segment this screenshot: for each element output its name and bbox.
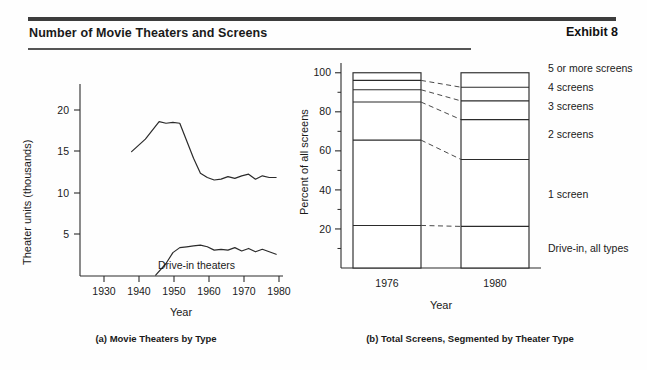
legend-item-4-screens: 4 screens	[548, 81, 594, 93]
connector-1	[421, 225, 461, 226]
chart-b-ytick-label-20: 20	[319, 223, 331, 235]
chart-b-bars	[353, 73, 529, 268]
legend-item-3-screens: 3 screens	[548, 100, 594, 112]
chart-a-y-ticks: 20 15 10 5	[57, 104, 80, 240]
chart-a-ytick-5: 5	[63, 228, 69, 240]
legend-item-5-or-more-screens: 5 or more screens	[548, 62, 633, 74]
legend-item-drive-in: Drive-in, all types	[548, 242, 629, 254]
chart-b-y-ticks: 20406080100	[313, 66, 341, 248]
line-indoor-theaters	[132, 122, 277, 180]
chart-a-xlabel: Year	[170, 306, 193, 318]
chart-b-category-1976: 1976	[375, 277, 399, 289]
caption-chart-b: (b) Total Screens, Segmented by Theater …	[300, 333, 640, 344]
chart-a-line: Theater units (thousands) 20 15 10 5	[18, 60, 303, 330]
chart-b-ytick-label-40: 40	[319, 184, 331, 196]
header-rule-bottom	[28, 48, 471, 50]
connector-5	[421, 80, 461, 87]
connector-4	[421, 90, 461, 101]
chart-b-xlabel: Year	[430, 299, 453, 311]
chart-b-ytick-label-80: 80	[319, 105, 331, 117]
bar-1980	[461, 73, 529, 268]
chart-b-legend: 5 or more screens 4 screens 3 screens 2 …	[548, 62, 633, 254]
chart-a-ytick-20: 20	[57, 104, 69, 116]
chart-a-xtick-1960: 1960	[197, 285, 221, 297]
chart-b-ytick-label-60: 60	[319, 144, 331, 156]
legend-item-1-screen: 1 screen	[548, 188, 588, 200]
chart-b-connectors	[421, 80, 461, 226]
connector-3	[421, 102, 461, 120]
exhibit-page: Number of Movie Theaters and Screens Exh…	[0, 0, 647, 370]
chart-a-xtick-1930: 1930	[92, 285, 116, 297]
chart-a-svg: Theater units (thousands) 20 15 10 5	[18, 60, 303, 330]
header-rule-top	[28, 17, 616, 21]
chart-a-ylabel: Theater units (thousands)	[21, 140, 33, 265]
chart-a-x-ticks: 1930 1940 1950 1960 1970 1980	[92, 276, 291, 297]
chart-b-ytick-label-100: 100	[313, 66, 331, 78]
chart-b-ylabel: Percent of all screens	[298, 109, 310, 215]
connector-2	[421, 140, 461, 159]
chart-a-xtick-1940: 1940	[127, 285, 151, 297]
chart-a-ytick-15: 15	[57, 145, 69, 157]
annotation-drive-in-theaters: Drive-in theaters	[158, 259, 235, 271]
exhibit-label: Exhibit 8	[566, 25, 618, 39]
chart-a-xtick-1950: 1950	[162, 285, 186, 297]
chart-b-category-1980: 1980	[483, 277, 507, 289]
page-title: Number of Movie Theaters and Screens	[29, 26, 267, 40]
chart-a-xtick-1970: 1970	[232, 285, 256, 297]
chart-a-xtick-1980: 1980	[267, 285, 291, 297]
legend-item-2-screens: 2 screens	[548, 128, 594, 140]
chart-b-svg: Percent of all screens 20406080100 1976 …	[296, 55, 646, 330]
chart-b-stacked-bar: Percent of all screens 20406080100 1976 …	[296, 55, 646, 330]
caption-chart-a: (a) Movie Theaters by Type	[0, 333, 312, 344]
chart-a-ytick-10: 10	[57, 187, 69, 199]
